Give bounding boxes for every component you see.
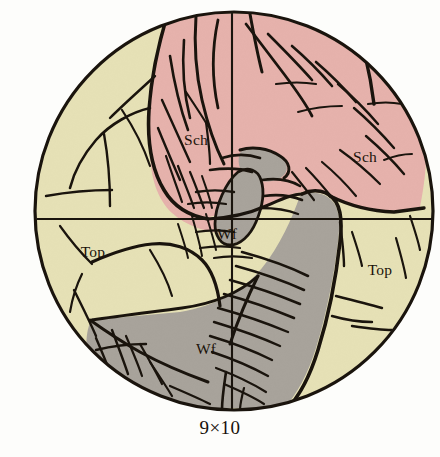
label-top-left: Top	[81, 243, 106, 260]
label-sch-upper-right: Sch	[353, 148, 377, 165]
label-sch-upper-left: Sch	[184, 131, 208, 148]
label-wf-center: Wf	[217, 225, 238, 242]
label-wf-lower: Wf	[196, 340, 217, 357]
thin-section-drawing: Sch Sch Top Top Wf Wf	[0, 0, 440, 457]
figure-caption: 9×10	[0, 417, 440, 439]
figure-root: Sch Sch Top Top Wf Wf 9×10	[0, 0, 440, 457]
label-top-right: Top	[368, 261, 393, 278]
